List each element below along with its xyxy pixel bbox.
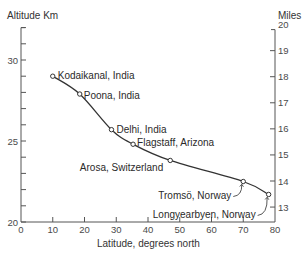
y-right-tick-label: 14 (278, 176, 289, 187)
y-right-tick-label: 15 (278, 149, 289, 160)
x-tick-label: 80 (270, 224, 281, 235)
leader-arrow (258, 197, 268, 215)
x-tick-label: 40 (143, 224, 154, 235)
y-axis-left-ticks: 202530 (7, 28, 26, 228)
point-label: Delhi, India (116, 124, 166, 135)
x-tick-label: 0 (18, 224, 23, 235)
y-right-tick-label: 13 (278, 202, 289, 213)
y-tick-label: 25 (7, 136, 18, 147)
data-point-marker (78, 92, 82, 96)
data-point-marker (109, 127, 113, 131)
x-tick-label: 20 (79, 224, 90, 235)
altitude-latitude-chart: Altitude Km Miles Latitude, degrees nort… (0, 0, 305, 253)
point-label: Arosa, Switzerland (80, 162, 163, 173)
y-right-tick-label: 19 (278, 45, 289, 56)
data-point-marker (241, 179, 245, 183)
data-point-marker (51, 74, 55, 78)
point-label: Longyearbyen, Norway (153, 209, 256, 220)
y-tick-label: 30 (7, 55, 18, 66)
y-right-tick-label: 17 (278, 97, 289, 108)
y-tick-label: 20 (7, 217, 18, 228)
point-label: Flagstaff, Arizona (137, 137, 215, 148)
point-labels: Kodaikanal, IndiaPoona, IndiaDelhi, Indi… (58, 70, 269, 220)
y-right-tick-label: 18 (278, 71, 289, 82)
x-tick-label: 60 (206, 224, 217, 235)
x-tick-label: 10 (47, 224, 58, 235)
y-right-tick-label: 16 (278, 123, 289, 134)
y-axis-right-ticks: 1314151617181920 (270, 19, 289, 212)
point-label: Poona, India (84, 90, 141, 101)
point-label: Kodaikanal, India (58, 70, 135, 81)
point-label: Tromsö, Norway (158, 190, 231, 201)
data-point-marker (131, 142, 135, 146)
data-point-marker (168, 158, 172, 162)
data-point-marker (266, 192, 270, 196)
x-tick-label: 30 (111, 224, 122, 235)
y-right-tick-label: 20 (278, 19, 289, 30)
x-axis-title: Latitude, degrees north (97, 238, 200, 249)
x-tick-label: 50 (174, 224, 185, 235)
y-axis-left-title: Altitude Km (7, 10, 58, 21)
x-tick-label: 70 (238, 224, 249, 235)
